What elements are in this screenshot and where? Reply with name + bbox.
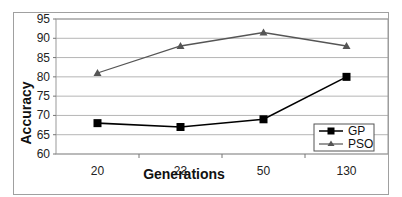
y-axis-title: Accuracy	[18, 81, 34, 144]
gp-marker-icon	[94, 119, 102, 127]
x-tick-label: 130	[336, 164, 356, 178]
line-chart: 9590858075706560 202350130 Accuracy Gene…	[0, 0, 402, 197]
x-axis-title: Generations	[143, 166, 225, 182]
y-tick-label: 80	[37, 70, 51, 84]
gp-marker-icon	[343, 73, 351, 81]
y-tick-label: 95	[37, 12, 51, 26]
x-tick-label: 20	[91, 164, 105, 178]
pso-marker-icon	[260, 29, 268, 36]
y-tick-label: 75	[37, 89, 51, 103]
y-tick-label: 85	[37, 51, 51, 65]
y-tick-label: 70	[37, 108, 51, 122]
gp-legend-marker-icon	[328, 128, 335, 135]
y-tick-label: 65	[37, 128, 51, 142]
legend-gp-label: GP	[348, 124, 365, 138]
legend-pso-label: PSO	[348, 137, 373, 151]
x-tick-label: 50	[257, 164, 271, 178]
gp-marker-icon	[177, 123, 185, 131]
gp-marker-icon	[260, 115, 268, 123]
y-tick-label: 90	[37, 31, 51, 45]
y-tick-label: 60	[37, 147, 51, 161]
gp-line	[98, 77, 347, 127]
y-axis-ticks: 9590858075706560	[37, 12, 56, 161]
legend: GP PSO	[314, 124, 374, 151]
